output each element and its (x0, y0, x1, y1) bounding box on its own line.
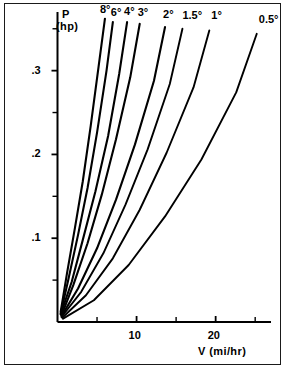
x-axis-label: V (mi/hr) (198, 345, 246, 357)
curve-1.5deg (61, 29, 182, 317)
y-tick-label: .2 (32, 147, 41, 159)
curves-group (61, 19, 257, 319)
curve-label-0.5deg: 0.5° (259, 13, 279, 25)
curve-label-8deg: 8° (100, 3, 111, 15)
curve-label-4deg: 4° (124, 5, 135, 17)
y-tick-label: .1 (32, 231, 41, 243)
y-axis-label-p: P (62, 8, 70, 20)
y-axis-label-units: (hp) (56, 20, 78, 32)
figure-container: P (hp) V (mi/hr) .1.2.3 1020 8°6°4°3°2°1… (0, 0, 286, 370)
curve-label-3deg: 3° (138, 6, 149, 18)
x-tick-label: 20 (208, 329, 220, 341)
x-tick-label: 10 (129, 329, 141, 341)
y-tick-label: .3 (32, 64, 41, 76)
chart-plot (0, 0, 286, 370)
curve-label-1.5deg: 1.5° (182, 9, 202, 21)
curve-8deg (61, 19, 105, 312)
curve-label-1deg: 1° (211, 9, 222, 21)
curve-label-6deg: 6° (111, 6, 122, 18)
curve-label-2deg: 2° (163, 8, 174, 20)
curve-0.5deg (63, 34, 257, 319)
